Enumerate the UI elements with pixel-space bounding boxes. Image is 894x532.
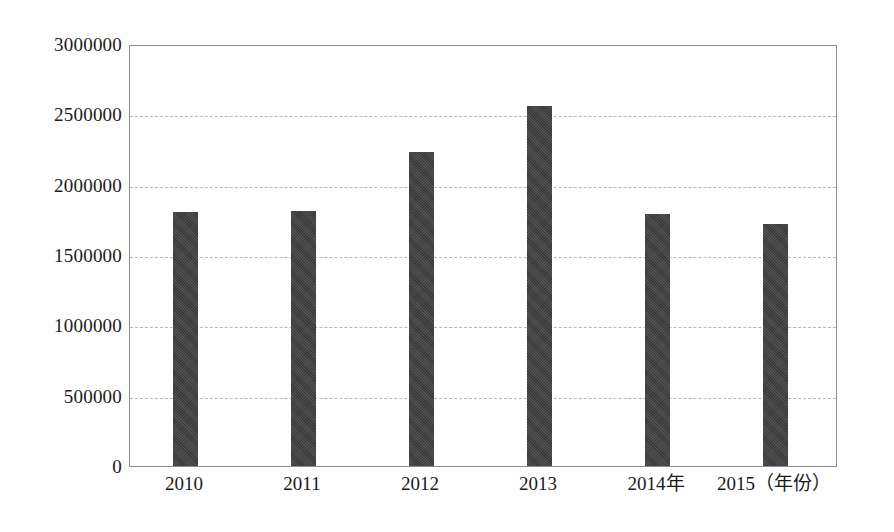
y-axis-tick-label: 1000000 [12,316,122,335]
x-axis-tick-label: 2012 [401,472,439,496]
y-axis-tick-label: 3000000 [12,35,122,54]
x-axis-tick-label: 2014年 [628,472,685,496]
y-axis-tick-label: 500000 [12,387,122,406]
gridline [130,398,836,399]
x-axis-tick-label: 2013 [519,472,557,496]
y-axis-tick-label: 2500000 [12,105,122,124]
y-axis-tick-label: 2000000 [12,176,122,195]
y-axis-tick-label: 1500000 [12,246,122,265]
x-axis-tick-label: 2011 [283,472,320,496]
bar [291,211,316,466]
y-axis-tick-labels: 0500000100000015000002000000250000030000… [10,45,122,467]
gridline [130,327,836,328]
bar [173,212,198,466]
bar [763,224,788,466]
bar [409,152,434,466]
plot-area [129,45,837,467]
y-axis-tick-label: 0 [12,457,122,476]
gridline [130,257,836,258]
x-axis-tick-labels: 20102011201220132014年2015（年份） [129,472,837,512]
bar-chart-figure: 0500000100000015000002000000250000030000… [0,0,894,532]
x-axis-tick-label: 2010 [165,472,203,496]
x-axis-tick-label: 2015（年份） [717,472,831,496]
bar [645,214,670,466]
gridline [130,187,836,188]
bar [527,106,552,466]
gridline [130,116,836,117]
